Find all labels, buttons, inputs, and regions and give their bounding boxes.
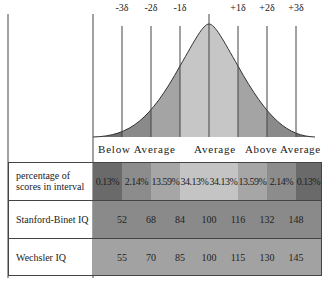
sb-value: 100 — [202, 214, 217, 225]
pct-cell: 2.14% — [122, 163, 151, 200]
sigma-label: -2δ — [144, 2, 157, 13]
sigma-label: -1δ — [173, 2, 186, 13]
w-value: 130 — [260, 252, 275, 263]
sb-value: 116 — [231, 214, 246, 225]
sigma-label: +1δ — [230, 2, 245, 13]
w-value: 100 — [202, 252, 217, 263]
band-average: Average — [194, 144, 236, 155]
w-value: 70 — [146, 252, 156, 263]
sb-value: 52 — [117, 214, 127, 225]
pct-cell: 13.59% — [151, 163, 180, 200]
pct-cell: 2.14% — [267, 163, 296, 200]
w-value: 55 — [117, 252, 127, 263]
w-row-label: Wechsler IQ — [16, 252, 66, 263]
w-value: 85 — [175, 252, 185, 263]
w-value: 145 — [289, 252, 304, 263]
w-value: 115 — [231, 252, 246, 263]
pct-cell: 0.13% — [93, 163, 122, 200]
sigma-label: +3δ — [288, 2, 303, 13]
pct-cell: 0.13% — [296, 163, 321, 200]
pct-row-label: percentage of scores in interval — [16, 170, 84, 192]
band-above: Above Average — [245, 144, 321, 155]
pct-cell: 34.13% — [209, 163, 238, 200]
sigma-label: -3δ — [115, 2, 128, 13]
band-below: Below Average — [98, 144, 176, 155]
sb-value: 148 — [289, 214, 304, 225]
pct-cell: 13.59% — [238, 163, 267, 200]
pct-cell: 34.13% — [180, 163, 209, 200]
sigma-label: +2δ — [259, 2, 274, 13]
sb-value: 68 — [146, 214, 156, 225]
sb-value: 84 — [175, 214, 185, 225]
sb-value: 132 — [260, 214, 275, 225]
sb-row-label: Stanford-Binet IQ — [16, 214, 89, 225]
